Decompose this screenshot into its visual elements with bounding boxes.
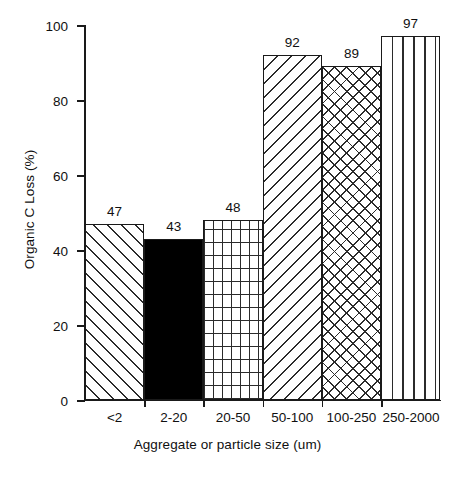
x-tick-mark-1 bbox=[144, 401, 146, 407]
x-tick-mark-3 bbox=[263, 401, 265, 407]
value-label-lt2: 47 bbox=[85, 205, 144, 219]
y-tick-label-0: 0 bbox=[24, 395, 68, 409]
value-label-100-250: 89 bbox=[322, 47, 381, 61]
bar-2-20[interactable] bbox=[144, 239, 203, 400]
value-label-2-20: 43 bbox=[144, 220, 203, 234]
x-tick-mark-2 bbox=[203, 401, 205, 407]
x-tick-mark-4 bbox=[322, 401, 324, 407]
bar-250-2000[interactable] bbox=[381, 36, 440, 400]
bar-20-50[interactable] bbox=[203, 220, 262, 400]
x-tick-label-100-250: 100-250 bbox=[322, 411, 381, 425]
bar-100-250[interactable] bbox=[322, 66, 381, 400]
y-tick-label-60: 60 bbox=[24, 170, 68, 184]
bar-chart-figure: Organic C Loss (%) 100 80 60 40 20 0 47 … bbox=[0, 0, 455, 486]
x-tick-label-2-20: 2-20 bbox=[144, 411, 203, 425]
x-tick-label-250-2000: 250-2000 bbox=[381, 411, 441, 425]
x-axis-title: Aggregate or particle size (um) bbox=[0, 437, 455, 452]
y-tick-label-20: 20 bbox=[24, 320, 68, 334]
y-axis-title: Organic C Loss (%) bbox=[22, 115, 37, 305]
value-label-50-100: 92 bbox=[263, 36, 322, 50]
x-tick-label-lt2: <2 bbox=[85, 411, 144, 425]
bar-50-100[interactable] bbox=[263, 55, 322, 400]
y-tick-label-80: 80 bbox=[24, 95, 68, 109]
y-tick-label-40: 40 bbox=[24, 245, 68, 259]
bar-lt2[interactable] bbox=[85, 224, 144, 400]
x-tick-mark-5 bbox=[381, 401, 383, 407]
value-label-20-50: 48 bbox=[203, 201, 262, 215]
x-tick-label-50-100: 50-100 bbox=[263, 411, 322, 425]
value-label-250-2000: 97 bbox=[381, 17, 440, 31]
x-tick-label-20-50: 20-50 bbox=[203, 411, 262, 425]
y-tick-label-100: 100 bbox=[24, 20, 68, 34]
